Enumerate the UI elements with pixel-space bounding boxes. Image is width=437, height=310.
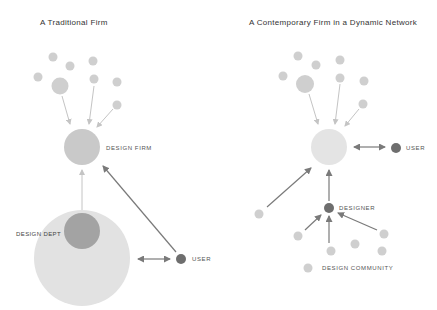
external-nodes-left — [34, 53, 122, 110]
arrow — [62, 96, 70, 124]
community-arrow — [338, 213, 377, 230]
node — [294, 232, 303, 241]
legend-node — [304, 264, 313, 273]
node — [359, 100, 368, 109]
design-dept-label: DESIGN DEPT — [16, 231, 61, 237]
node — [49, 53, 58, 62]
arrow — [89, 86, 94, 124]
incoming-arrows-right — [309, 84, 359, 126]
node — [66, 62, 75, 71]
peer-to-firm-arrow — [267, 168, 311, 207]
designer-node — [324, 203, 334, 213]
node — [327, 247, 336, 256]
user-node-right — [391, 143, 401, 153]
design-firm-node — [64, 129, 100, 165]
designer-label: DESIGNER — [339, 205, 375, 211]
node — [312, 61, 321, 70]
arrow — [345, 109, 359, 126]
node-large — [296, 75, 314, 93]
node — [34, 73, 43, 82]
node — [113, 78, 122, 87]
traditional-firm-title: A Traditional Firm — [40, 18, 108, 27]
node — [351, 240, 360, 249]
node — [113, 101, 122, 110]
node — [294, 52, 303, 61]
contemporary-firm-title: A Contemporary Firm in a Dynamic Network — [249, 18, 418, 27]
node — [90, 75, 99, 84]
community-arrow — [305, 215, 321, 230]
node — [380, 230, 389, 239]
design-community-label: DESIGN COMMUNITY — [322, 265, 393, 271]
node — [336, 56, 345, 65]
contemporary-firm-panel: A Contemporary Firm in a Dynamic Network… — [249, 18, 425, 273]
node — [89, 57, 98, 66]
node — [279, 72, 288, 81]
arrow — [309, 94, 318, 124]
design-firm-node-contemporary — [311, 129, 347, 165]
arrow — [335, 84, 340, 124]
user-label-right: USER — [406, 145, 425, 151]
node — [378, 247, 387, 256]
user-label-left: USER — [192, 256, 211, 262]
peer-node — [255, 210, 264, 219]
user-node-left — [176, 254, 186, 264]
arrow — [97, 109, 113, 127]
node-large — [52, 78, 69, 95]
traditional-firm-panel: A Traditional Firm DESIGN FIRM DESIGN DE… — [16, 18, 211, 306]
node — [360, 77, 369, 86]
diagram-canvas: A Traditional Firm DESIGN FIRM DESIGN DE… — [0, 0, 437, 310]
design-dept-node — [64, 213, 100, 249]
external-nodes-right — [279, 52, 369, 109]
design-firm-label: DESIGN FIRM — [106, 145, 152, 151]
node — [336, 74, 345, 83]
